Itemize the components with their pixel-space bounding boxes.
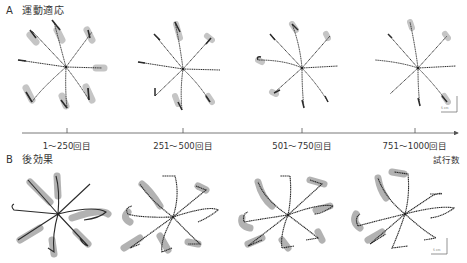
panel-b-star-3 <box>242 176 333 248</box>
panel-a-star-1 <box>18 20 104 108</box>
tick-label-2: 251〜500回目 <box>153 139 212 151</box>
trajectory-figure <box>0 0 467 263</box>
axis-title-trials: 試行数 <box>433 153 460 165</box>
panel-a-star-3 <box>257 24 338 108</box>
scale-bar-b-label: 5 cm <box>433 248 440 252</box>
tick-label-1: 1〜250回目 <box>43 139 92 151</box>
tick-label-4: 751〜1000回目 <box>383 139 448 151</box>
scale-bar-a-label: 5 cm <box>441 106 448 110</box>
panel-b-star-4 <box>355 172 454 248</box>
tick-label-3: 501〜750回目 <box>272 139 331 151</box>
panel-b-star-2 <box>124 176 218 252</box>
panel-b-star-1 <box>12 176 108 254</box>
panel-a-star-2 <box>138 22 220 110</box>
trial-axis <box>22 128 458 133</box>
panel-a-star-4 <box>375 22 456 106</box>
